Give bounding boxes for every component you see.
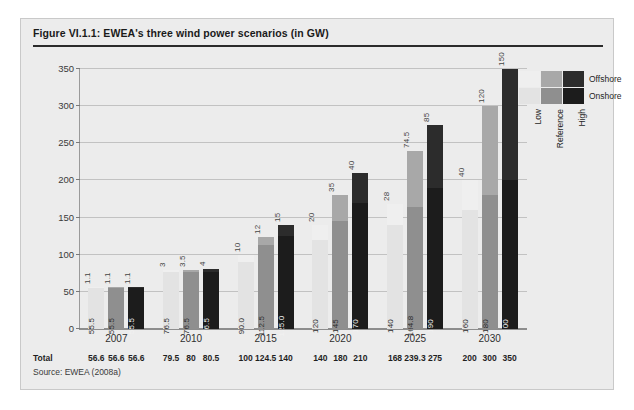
bar-segment-onshore: 55.5 xyxy=(108,288,124,329)
x-axis-label-2030: 2030 xyxy=(479,333,501,344)
bar-value-onshore: 120 xyxy=(311,319,320,333)
bar-2020-high[interactable]: 17040 xyxy=(352,173,368,329)
bar-segment-onshore: 112.5 xyxy=(258,245,274,329)
bar-group-2010: 76.5376.53.576.54 xyxy=(154,69,229,329)
x-axis-label-2020: 2020 xyxy=(329,333,351,344)
bar-value-onshore: 55.5 xyxy=(127,318,136,334)
bar-value-offshore: 12 xyxy=(252,224,261,233)
total-value-2025-reference: 239.3 xyxy=(404,353,425,363)
bar-value-offshore: 74.5 xyxy=(401,132,410,148)
bar-value-onshore: 180 xyxy=(481,319,490,333)
bar-2020-low[interactable]: 12020 xyxy=(312,225,328,329)
bar-2010-high[interactable]: 76.54 xyxy=(203,269,219,329)
total-value-2025-low: 168 xyxy=(388,353,402,363)
bar-segment-onshore: 140 xyxy=(387,225,403,329)
y-axis-tick-label: 300 xyxy=(58,100,74,111)
x-axis-line xyxy=(79,329,527,330)
bar-segment-onshore: 125.0 xyxy=(278,236,294,329)
total-value-2020-high: 210 xyxy=(353,353,367,363)
total-value-2007-reference: 56.6 xyxy=(108,353,125,363)
bar-segment-offshore xyxy=(332,195,348,221)
bar-segment-offshore xyxy=(278,225,294,236)
bar-2020-reference[interactable]: 14535 xyxy=(332,195,348,329)
total-value-2015-high: 140 xyxy=(279,353,293,363)
bar-value-offshore: 1.1 xyxy=(83,272,92,284)
bar-value-offshore: 85 xyxy=(421,112,430,121)
bar-2025-high[interactable]: 19085 xyxy=(427,125,443,329)
bar-segment-offshore xyxy=(482,106,498,195)
y-axis-tick-label: 350 xyxy=(58,63,74,74)
bar-segment-offshore xyxy=(352,173,368,203)
total-value-2007-high: 56.6 xyxy=(128,353,145,363)
legend-column-label-reference: Reference xyxy=(555,109,565,148)
bar-value-onshore: 76.5 xyxy=(202,318,211,334)
bar-2007-high[interactable]: 55.51.1 xyxy=(128,287,144,329)
total-value-2025-high: 275 xyxy=(428,353,442,363)
total-row-label: Total xyxy=(33,353,53,363)
bar-segment-onshore: 145 xyxy=(332,221,348,329)
bar-segment-onshore: 120 xyxy=(312,240,328,329)
legend-swatch-low-onshore xyxy=(519,88,540,104)
bar-2010-reference[interactable]: 76.53.5 xyxy=(183,270,199,329)
title-divider xyxy=(33,45,603,47)
bar-value-offshore: 40 xyxy=(347,161,356,170)
bar-2030-high[interactable]: 200150 xyxy=(502,69,518,329)
bar-2025-reference[interactable]: 164.874.5 xyxy=(407,151,423,329)
bar-segment-offshore xyxy=(387,204,403,225)
bar-value-offshore: 10 xyxy=(232,242,241,251)
y-axis-tick-label: 150 xyxy=(58,211,74,222)
bar-value-onshore: 145 xyxy=(331,319,340,333)
bar-value-offshore: 1.1 xyxy=(123,272,132,284)
bar-value-offshore: 40 xyxy=(456,168,465,177)
bar-segment-offshore xyxy=(258,237,274,246)
bar-2007-low[interactable]: 55.51.1 xyxy=(88,287,104,329)
bar-2015-reference[interactable]: 112.512 xyxy=(258,237,274,329)
bar-value-onshore: 55.5 xyxy=(107,318,116,334)
bar-value-offshore: 150 xyxy=(496,52,505,66)
x-axis-label-2010: 2010 xyxy=(180,333,202,344)
bar-segment-onshore: 55.5 xyxy=(88,288,104,329)
bar-segment-onshore: 200 xyxy=(502,180,518,329)
bar-value-onshore: 200 xyxy=(501,319,510,333)
legend-column-label-low: Low xyxy=(533,109,543,125)
legend-swatch-reference-onshore xyxy=(541,88,562,104)
bar-segment-offshore xyxy=(312,225,328,240)
bar-value-offshore: 20 xyxy=(307,213,316,222)
bar-2007-reference[interactable]: 55.51.1 xyxy=(108,287,124,329)
bar-value-onshore: 76.5 xyxy=(162,318,171,334)
bar-segment-offshore xyxy=(88,287,104,288)
bar-value-offshore: 4 xyxy=(197,262,206,267)
bar-segment-offshore xyxy=(427,125,443,188)
bar-value-onshore: 55.5 xyxy=(87,318,96,334)
bar-value-offshore: 15 xyxy=(272,213,281,222)
bar-2010-low[interactable]: 76.53 xyxy=(163,270,179,329)
total-value-2020-low: 140 xyxy=(313,353,327,363)
total-value-2010-low: 79.5 xyxy=(163,353,180,363)
bar-segment-offshore xyxy=(502,69,518,180)
bar-group-2007: 55.51.155.51.155.51.1 xyxy=(79,69,154,329)
source-note: Source: EWEA (2008a) xyxy=(33,367,121,377)
bar-2025-low[interactable]: 14028 xyxy=(387,204,403,329)
legend-swatch-grid: OffshoreOnshore xyxy=(519,71,585,105)
total-value-2030-high: 350 xyxy=(503,353,517,363)
bar-segment-onshore: 190 xyxy=(427,188,443,329)
total-value-2007-low: 56.6 xyxy=(88,353,105,363)
bar-value-onshore: 160 xyxy=(461,319,470,333)
bar-2015-high[interactable]: 125.015 xyxy=(278,225,294,329)
bar-value-onshore: 190 xyxy=(426,319,435,333)
bar-value-onshore: 140 xyxy=(386,319,395,333)
bar-2015-low[interactable]: 90.010 xyxy=(238,255,254,329)
bar-group-2025: 14028164.874.519085 xyxy=(378,69,453,329)
legend-row-label-onshore: Onshore xyxy=(589,91,622,101)
bar-2030-low[interactable]: 16040 xyxy=(462,180,478,329)
bar-segment-onshore: 76.5 xyxy=(163,272,179,329)
bar-group-2015: 90.010112.512125.015 xyxy=(228,69,303,329)
bar-segment-offshore xyxy=(163,270,179,272)
x-axis-label-2015: 2015 xyxy=(255,333,277,344)
y-axis-tick-label: 50 xyxy=(63,285,74,296)
bar-segment-offshore xyxy=(128,287,144,288)
bar-value-offshore: 3.5 xyxy=(177,255,186,267)
bar-2030-reference[interactable]: 180120 xyxy=(482,106,498,329)
y-axis-tick-label: 200 xyxy=(58,174,74,185)
bar-value-onshore: 170 xyxy=(351,319,360,333)
